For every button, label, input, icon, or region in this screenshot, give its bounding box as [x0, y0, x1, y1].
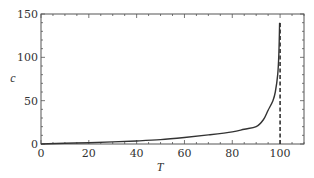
x-tick-label: 40: [130, 147, 144, 160]
x-tick-label: 60: [177, 147, 191, 160]
y-tick-label: 150: [17, 8, 38, 21]
line-chart: 020406080100 050100150 T c: [0, 0, 314, 178]
x-tick-label: 0: [38, 147, 45, 160]
data-series: [41, 23, 280, 144]
x-tick-label: 100: [270, 147, 291, 160]
x-tick-label: 80: [225, 147, 239, 160]
plot-frame: [41, 14, 304, 144]
x-tick-label: 20: [82, 147, 96, 160]
x-axis-label: T: [157, 160, 165, 174]
y-tick-label: 100: [17, 51, 38, 64]
y-tick-label: 50: [24, 95, 38, 108]
axis-ticks: [41, 14, 304, 144]
series-line: [41, 23, 280, 144]
y-tick-label: 0: [31, 138, 38, 151]
x-tick-labels: 020406080100: [38, 147, 291, 160]
y-axis-label: c: [10, 71, 16, 85]
y-tick-labels: 050100150: [17, 8, 38, 151]
